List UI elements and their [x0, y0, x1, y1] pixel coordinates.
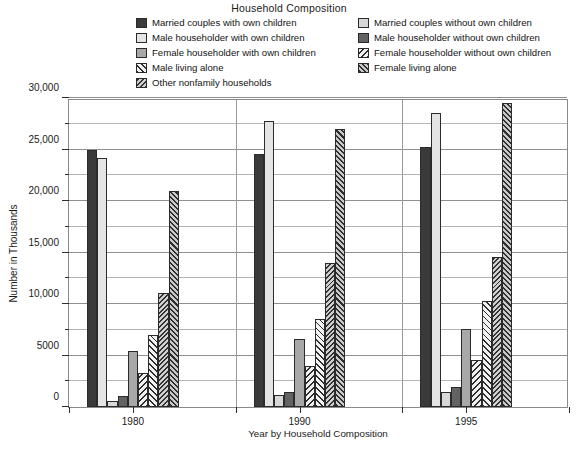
y-axis-tick-minor: [65, 329, 69, 330]
group-separator-gridline: [402, 100, 403, 407]
bar: [294, 339, 304, 407]
bar: [461, 329, 471, 407]
y-axis-tick-major: [62, 252, 69, 253]
y-axis-tick-minor: [65, 123, 69, 124]
bar: [264, 121, 274, 407]
y-axis-tick-minor: [65, 380, 69, 381]
bar: [148, 335, 158, 407]
x-axis-group-label: 1980: [122, 416, 144, 427]
gridline-major: [69, 149, 567, 150]
legend-item[interactable]: Male householder without own children: [358, 31, 576, 45]
legend-item-label: Female householder without own children: [374, 47, 551, 58]
x-axis-group-label: 1995: [455, 416, 477, 427]
bar: [420, 147, 430, 407]
legend-item[interactable]: Female householder without own children: [358, 46, 576, 60]
group-separator-gridline: [236, 100, 237, 407]
legend-swatch-icon: [358, 33, 369, 43]
chart-title: Household Composition: [0, 2, 578, 14]
y-axis-tick-major: [62, 97, 69, 98]
y-axis-tick-label: 30,000: [28, 82, 59, 93]
x-axis-tick: [69, 407, 70, 413]
legend-item-label: Male householder with own children: [152, 32, 305, 43]
x-axis-title: Year by Household Composition: [68, 428, 568, 439]
y-axis-tick-label: 15,000: [28, 236, 59, 247]
legend-item[interactable]: Other nonfamily households: [136, 76, 358, 90]
y-axis-tick-minor: [65, 277, 69, 278]
bar: [325, 263, 335, 407]
legend-column-1: Married couples with own childrenMale ho…: [136, 16, 358, 90]
legend-item-label: Female living alone: [374, 62, 457, 73]
x-axis-group-tick: [133, 407, 134, 413]
legend-item[interactable]: Married couples without own children: [358, 16, 576, 30]
y-axis-tick-label: 10,000: [28, 288, 59, 299]
legend-item[interactable]: Male living alone: [136, 61, 358, 75]
bar: [482, 301, 492, 407]
y-axis-tick-major: [62, 200, 69, 201]
legend-item-label: Married couples without own children: [374, 17, 532, 28]
gridline-major: [69, 200, 567, 201]
legend-item[interactable]: Male householder with own children: [136, 31, 358, 45]
y-axis-tick-label: 20,000: [28, 185, 59, 196]
legend-swatch-icon: [136, 63, 147, 73]
x-axis-tick: [569, 407, 570, 413]
legend-column-2: Married couples without own childrenMale…: [358, 16, 576, 90]
y-axis-tick-minor: [65, 226, 69, 227]
y-axis-tick-label: 25,000: [28, 133, 59, 144]
x-axis-tick: [402, 407, 403, 413]
bar: [284, 392, 294, 407]
bar: [107, 401, 117, 407]
legend-item-label: Male living alone: [152, 62, 223, 73]
bar: [305, 366, 315, 407]
y-axis-tick-major: [62, 149, 69, 150]
legend-swatch-icon: [358, 18, 369, 28]
y-axis-tick-label: 5000: [37, 339, 59, 350]
x-axis-group-tick: [300, 407, 301, 413]
legend-item[interactable]: Female living alone: [358, 61, 576, 75]
y-axis-tick-minor: [65, 174, 69, 175]
household-composition-chart-figure: Household Composition Married couples wi…: [0, 0, 578, 450]
bar: [87, 150, 97, 407]
bar: [138, 373, 148, 407]
bar: [451, 387, 461, 407]
gridline-minor: [69, 226, 567, 227]
bar: [169, 191, 179, 407]
gridline-minor: [69, 123, 567, 124]
legend-swatch-icon: [358, 63, 369, 73]
legend-swatch-icon: [136, 78, 147, 88]
legend-item[interactable]: Married couples with own children: [136, 16, 358, 30]
y-axis-tick-label: 0: [53, 391, 59, 402]
plot-area: 0500010,00015,00020,00025,00030,00019801…: [68, 99, 568, 408]
bar: [431, 113, 441, 407]
bar: [335, 129, 345, 408]
bar: [471, 360, 481, 407]
legend-item-label: Other nonfamily households: [152, 77, 271, 88]
legend-swatch-icon: [136, 18, 147, 28]
legend-item[interactable]: Female householder with own children: [136, 46, 358, 60]
gridline-minor: [69, 174, 567, 175]
bar: [315, 319, 325, 407]
legend-item-label: Male householder without own children: [374, 32, 540, 43]
bar: [158, 293, 168, 407]
y-axis-tick-major: [62, 406, 69, 407]
y-axis-title: Number in Thousands: [6, 99, 20, 408]
gridline-major: [69, 252, 567, 253]
legend-item-label: Female householder with own children: [152, 47, 316, 58]
legend-item-label: Married couples with own children: [152, 17, 297, 28]
bar: [97, 158, 107, 407]
legend-swatch-icon: [136, 33, 147, 43]
bar: [492, 257, 502, 407]
y-axis-tick-major: [62, 303, 69, 304]
x-axis-group-label: 1990: [288, 416, 310, 427]
bar: [254, 154, 264, 407]
legend-swatch-icon: [358, 48, 369, 58]
x-axis-tick: [236, 407, 237, 413]
bar: [128, 351, 138, 407]
legend-swatch-icon: [136, 48, 147, 58]
bar: [274, 395, 284, 407]
bar: [441, 392, 451, 407]
y-axis-tick-major: [62, 355, 69, 356]
bar: [118, 396, 128, 408]
bar: [502, 103, 512, 407]
y-axis-title-text: Number in Thousands: [8, 204, 19, 302]
chart-legend: Married couples with own childrenMale ho…: [136, 16, 576, 90]
